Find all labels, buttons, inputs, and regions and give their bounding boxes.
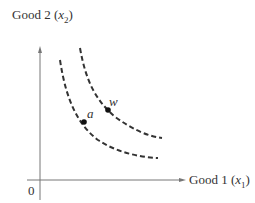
y-axis-arrow-icon (38, 46, 42, 53)
x-axis-sub: 1 (241, 180, 246, 190)
x-axis-arrow-icon (179, 178, 186, 182)
x-axis-label: Good 1 (x1) (189, 172, 250, 190)
y-axis-sub: 2 (64, 15, 69, 25)
point-a-label: a (87, 106, 94, 122)
point-w-label: w (109, 94, 118, 110)
point-a-marker (81, 119, 87, 125)
origin-label: 0 (28, 183, 35, 199)
outer-indifference-curve (80, 48, 162, 138)
y-axis-label: Good 2 (x2) (12, 7, 73, 25)
y-axis-label-text: Good 2 (12, 7, 51, 22)
x-axis-label-text: Good 1 (189, 172, 228, 187)
